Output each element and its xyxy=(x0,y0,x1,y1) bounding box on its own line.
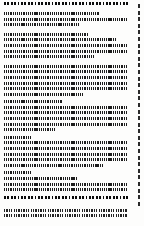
text-line xyxy=(4,33,88,36)
paragraph-6 xyxy=(4,171,132,191)
footer-line xyxy=(4,214,128,217)
footer xyxy=(4,209,132,218)
line-end-marker xyxy=(138,103,140,107)
text-line xyxy=(4,65,128,68)
text-line xyxy=(4,100,62,103)
line-end-marker xyxy=(138,123,140,127)
line-end-marker xyxy=(138,202,140,206)
line-end-marker xyxy=(138,24,140,28)
text-line xyxy=(4,18,128,21)
paragraph-5 xyxy=(4,136,132,167)
line-end-marker xyxy=(138,44,140,48)
line-end-marker xyxy=(138,50,140,54)
document-page xyxy=(0,0,144,226)
text-line xyxy=(4,12,99,15)
line-end-marker xyxy=(138,77,140,81)
line-end-marker xyxy=(138,189,140,193)
text-line xyxy=(4,188,128,191)
paragraph-1 xyxy=(4,12,132,26)
line-end-marker xyxy=(138,175,140,179)
paragraph-3 xyxy=(4,65,132,96)
line-end-marker xyxy=(138,96,140,100)
text-line xyxy=(4,164,103,167)
text-line xyxy=(4,44,128,47)
document-title xyxy=(4,2,132,5)
line-end-marker xyxy=(138,30,140,34)
text-line xyxy=(4,50,128,53)
line-end-marker xyxy=(138,149,140,153)
document-content xyxy=(4,2,132,220)
text-line xyxy=(4,177,77,180)
line-end-marker xyxy=(138,116,140,120)
text-line xyxy=(4,171,32,174)
text-line xyxy=(4,141,128,144)
paragraph-2 xyxy=(4,33,132,58)
footer-line xyxy=(4,209,128,212)
line-end-markers xyxy=(138,4,140,220)
text-line xyxy=(4,128,55,131)
line-end-marker xyxy=(138,83,140,87)
line-end-marker xyxy=(138,142,140,146)
line-end-marker xyxy=(138,57,140,61)
text-line xyxy=(4,76,128,79)
text-line xyxy=(4,111,128,114)
line-end-marker xyxy=(138,156,140,160)
footer-rule xyxy=(4,196,132,199)
line-end-marker xyxy=(138,195,140,199)
line-end-marker xyxy=(138,136,140,140)
text-line xyxy=(4,38,117,41)
text-line xyxy=(4,82,128,85)
text-line xyxy=(4,153,128,156)
footer-rule-line xyxy=(4,196,128,199)
line-end-marker xyxy=(138,182,140,186)
text-line xyxy=(4,87,128,90)
title-line xyxy=(4,2,128,5)
line-end-marker xyxy=(138,169,140,173)
text-line xyxy=(4,70,128,73)
text-line xyxy=(4,106,128,109)
line-end-marker xyxy=(138,4,140,8)
text-line xyxy=(4,93,83,96)
text-line xyxy=(4,117,128,120)
text-line xyxy=(4,183,128,186)
line-end-marker xyxy=(138,110,140,114)
line-end-marker xyxy=(138,11,140,15)
line-end-marker xyxy=(138,37,140,41)
text-line xyxy=(4,147,128,150)
paragraph-4 xyxy=(4,100,132,131)
text-line xyxy=(4,136,32,139)
text-line xyxy=(4,55,94,58)
line-end-marker xyxy=(138,70,140,74)
text-line xyxy=(4,123,128,126)
text-line xyxy=(4,158,128,161)
line-end-marker xyxy=(138,63,140,67)
spacer xyxy=(4,202,132,209)
line-end-marker xyxy=(138,162,140,166)
line-end-marker xyxy=(138,129,140,133)
line-end-marker xyxy=(138,90,140,94)
line-end-marker xyxy=(138,17,140,21)
text-line xyxy=(4,23,80,26)
